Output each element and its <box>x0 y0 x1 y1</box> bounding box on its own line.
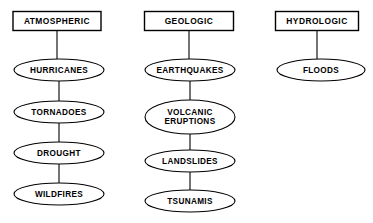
hazard-node-hurricanes[interactable]: HURRICANES <box>14 59 104 81</box>
category-header-label-geologic: GEOLOGIC <box>165 16 214 26</box>
hazard-node-label-floods: FLOODS <box>303 66 339 75</box>
hazard-node-label-landslides: LANDSLIDES <box>162 157 218 166</box>
hazard-node-label-drought: DROUGHT <box>37 149 81 158</box>
hazard-node-label-volcanic-eruptions: VOLCANICERUPTIONS <box>165 108 216 127</box>
hazard-node-landslides[interactable]: LANDSLIDES <box>145 150 235 172</box>
hazard-node-label-hurricanes: HURRICANES <box>30 66 88 75</box>
category-header-label-atmospheric: ATMOSPHERIC <box>24 16 90 26</box>
hazard-node-tornadoes[interactable]: TORNADOES <box>14 101 104 123</box>
hazard-node-wildfires[interactable]: WILDFIRES <box>14 183 104 205</box>
diagram-canvas: ATMOSPHERICHURRICANESTORNADOESDROUGHTWIL… <box>0 0 373 223</box>
hazard-node-label-earthquakes: EARTHQUAKES <box>156 66 223 75</box>
hazard-node-floods[interactable]: FLOODS <box>277 59 365 81</box>
hazard-node-earthquakes[interactable]: EARTHQUAKES <box>145 59 235 81</box>
hazard-node-drought[interactable]: DROUGHT <box>14 142 104 164</box>
hazard-node-volcanic-eruptions[interactable]: VOLCANICERUPTIONS <box>145 100 235 134</box>
category-header-geologic[interactable]: GEOLOGIC <box>145 12 234 31</box>
hazard-classification-diagram: ATMOSPHERICHURRICANESTORNADOESDROUGHTWIL… <box>0 0 373 223</box>
category-header-label-hydrologic: HYDROLOGIC <box>286 16 347 26</box>
hazard-node-label-tornadoes: TORNADOES <box>31 108 87 117</box>
category-header-hydrologic[interactable]: HYDROLOGIC <box>276 12 359 31</box>
hazard-node-label-tsunamis: TSUNAMIS <box>167 197 213 206</box>
category-header-atmospheric[interactable]: ATMOSPHERIC <box>13 12 101 31</box>
hazard-node-tsunamis[interactable]: TSUNAMIS <box>145 190 235 212</box>
hazard-node-label-wildfires: WILDFIRES <box>35 190 83 199</box>
